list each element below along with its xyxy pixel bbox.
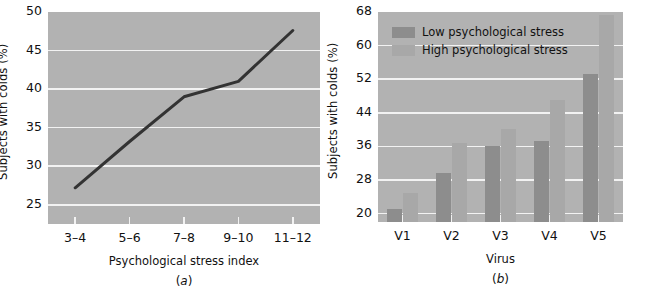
- plot-area-a: [48, 12, 320, 224]
- bar: [403, 193, 418, 222]
- caption-paren-close: ): [188, 274, 193, 286]
- y-tick-label: 40: [8, 82, 42, 95]
- y-tick-label: 35: [8, 121, 42, 134]
- bar: [599, 15, 614, 222]
- bar: [583, 74, 598, 222]
- legend-swatch: [392, 45, 415, 56]
- bar: [452, 143, 467, 222]
- x-axis-title-b: Virus: [338, 252, 657, 266]
- y-tick-label: 45: [8, 44, 42, 57]
- chart-panel-a: Subjects with colds (%) 504540353025 3–4…: [0, 0, 330, 286]
- x-tick-label: V5: [559, 230, 639, 243]
- bar: [550, 100, 565, 222]
- panel-caption-b: (b): [338, 272, 657, 286]
- x-tick-mark: [500, 215, 502, 222]
- y-tick-label: 20: [338, 207, 372, 220]
- x-tick-mark: [402, 215, 404, 222]
- bar: [485, 146, 500, 222]
- line-path: [75, 31, 293, 188]
- x-tick-mark: [549, 215, 551, 222]
- panel-caption-a: (a): [8, 274, 360, 286]
- y-tick-label: 36: [338, 139, 372, 152]
- bar: [436, 173, 451, 222]
- x-axis-title-a: Psychological stress index: [8, 254, 360, 268]
- x-tick-mark: [451, 215, 453, 222]
- y-tick-label: 30: [8, 159, 42, 172]
- y-tick-label: 60: [338, 39, 372, 52]
- bar: [501, 129, 516, 222]
- legend-label: Low psychological stress: [422, 26, 564, 39]
- plot-area-b: Low psychological stressHigh psychologic…: [378, 12, 623, 222]
- line-series-a: [48, 12, 320, 224]
- y-tick-label: 25: [8, 198, 42, 211]
- bar: [387, 209, 402, 222]
- chart-panel-b: Subjects with colds (%) 68605244362820 L…: [330, 0, 657, 286]
- y-tick-label: 44: [338, 106, 372, 119]
- y-tick-label: 52: [338, 72, 372, 85]
- figure-root: Subjects with colds (%) 504540353025 3–4…: [0, 0, 657, 286]
- x-tick-mark: [598, 215, 600, 222]
- y-tick-label: 28: [338, 173, 372, 186]
- y-tick-label: 50: [8, 5, 42, 18]
- y-tick-label: 68: [338, 5, 372, 18]
- legend-label: High psychological stress: [422, 44, 568, 57]
- legend-swatch: [392, 27, 415, 38]
- x-tick-label: 11–12: [253, 232, 333, 245]
- bar: [534, 141, 549, 222]
- caption-paren-close: ): [504, 272, 509, 286]
- caption-letter-a: a: [180, 274, 187, 286]
